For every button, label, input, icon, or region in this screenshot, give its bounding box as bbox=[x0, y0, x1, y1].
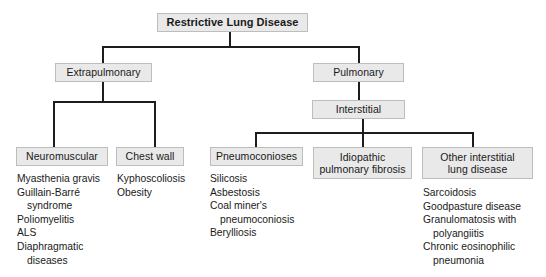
list-item-text: ALS bbox=[17, 227, 36, 238]
list-item-text: Kyphoscoliosis bbox=[117, 173, 185, 184]
connector-extrapulmonary-stem bbox=[102, 81, 104, 102]
connector-pulmonary-to-interstitial bbox=[358, 81, 360, 100]
connector-to-idiopathic-pulmonary-fibrosis bbox=[362, 132, 364, 147]
list-item-text: Poliomyelitis bbox=[17, 214, 74, 225]
list-item-text: Chronic eosinophilic bbox=[423, 241, 515, 252]
node-extrapulmonary[interactable]: Extrapulmonary bbox=[55, 63, 152, 82]
node-label: Interstitial bbox=[332, 103, 386, 116]
node-label: Neuromuscular bbox=[22, 150, 102, 163]
node-label: Idiopathicpulmonary fibrosis bbox=[315, 151, 409, 176]
list-item-continuation: pneumoconiosis bbox=[210, 213, 310, 227]
node-label: Restrictive Lung Disease bbox=[162, 16, 302, 29]
node-pulmonary[interactable]: Pulmonary bbox=[313, 63, 404, 82]
list-item: Sarcoidosis bbox=[423, 186, 545, 200]
list-item-text: Granulomatosis with bbox=[423, 214, 516, 225]
list-item: Guillain-Barrésyndrome bbox=[17, 186, 117, 213]
node-label: Chest wall bbox=[122, 150, 179, 163]
list-item: Myasthenia gravis bbox=[17, 172, 117, 186]
connector-level1-bar bbox=[102, 46, 360, 48]
list-item-text: Berylliosis bbox=[210, 227, 256, 238]
node-pneumoconioses[interactable]: Pneumoconioses bbox=[210, 147, 303, 166]
list-item: Obesity bbox=[117, 186, 202, 200]
node-label-line2: lung disease bbox=[448, 163, 508, 175]
list-item-text: Guillain-Barré bbox=[17, 187, 80, 198]
connector-to-chest-wall bbox=[154, 101, 156, 147]
list-item: ALS bbox=[17, 226, 117, 240]
list-item-continuation: polyangiitis bbox=[423, 227, 545, 241]
node-label: Pulmonary bbox=[329, 66, 388, 79]
connector-interstitial-bar bbox=[255, 132, 473, 134]
list-item-continuation: pneumonia bbox=[423, 254, 545, 268]
connector-to-other-interstitial bbox=[472, 132, 474, 147]
list-item: Silicosis bbox=[210, 172, 310, 186]
list-item: Poliomyelitis bbox=[17, 213, 117, 227]
connector-to-extrapulmonary bbox=[102, 46, 104, 63]
list-chest-wall: KyphoscoliosisObesity bbox=[117, 172, 202, 199]
node-label: Pneumoconioses bbox=[212, 150, 301, 163]
list-item-text: Goodpasture disease bbox=[423, 201, 521, 212]
list-item: Coal miner'spneumoconiosis bbox=[210, 199, 310, 226]
list-neuromuscular: Myasthenia gravisGuillain-BarrésyndromeP… bbox=[17, 172, 117, 267]
list-pneumoconioses: SilicosisAsbestosisCoal miner'spneumocon… bbox=[210, 172, 310, 240]
node-idiopathic-pulmonary-fibrosis[interactable]: Idiopathicpulmonary fibrosis bbox=[313, 147, 412, 179]
list-item-text: Diaphragmatic bbox=[17, 241, 83, 252]
list-item: Diaphragmaticdiseases bbox=[17, 240, 117, 267]
connector-to-neuromuscular bbox=[53, 101, 55, 147]
list-item-continuation: diseases bbox=[17, 254, 117, 268]
connector-to-pneumoconioses bbox=[255, 132, 257, 147]
list-item: Granulomatosis withpolyangiitis bbox=[423, 213, 545, 240]
connector-extrapulmonary-bar bbox=[53, 101, 155, 103]
list-item: Goodpasture disease bbox=[423, 200, 545, 214]
list-item-text: Asbestosis bbox=[210, 187, 260, 198]
list-item-text: Sarcoidosis bbox=[423, 187, 476, 198]
connector-interstitial-stem bbox=[362, 118, 364, 133]
node-label-line1: Idiopathic bbox=[340, 151, 385, 163]
list-item: Asbestosis bbox=[210, 186, 310, 200]
list-item-text: Myasthenia gravis bbox=[17, 173, 100, 184]
node-label-line2: pulmonary fibrosis bbox=[319, 163, 405, 175]
list-item-continuation: syndrome bbox=[17, 199, 117, 213]
connector-to-pulmonary bbox=[358, 46, 360, 63]
list-item: Berylliosis bbox=[210, 226, 310, 240]
list-item-text: Obesity bbox=[117, 187, 152, 198]
node-other-interstitial-lung-disease[interactable]: Other interstitiallung disease bbox=[422, 147, 533, 179]
node-chest-wall[interactable]: Chest wall bbox=[116, 147, 184, 166]
list-item: Kyphoscoliosis bbox=[117, 172, 202, 186]
node-neuromuscular[interactable]: Neuromuscular bbox=[16, 147, 108, 166]
list-item-text: Silicosis bbox=[210, 173, 247, 184]
restrictive-lung-disease-flowchart: Restrictive Lung Disease Extrapulmonary … bbox=[0, 0, 546, 277]
node-interstitial[interactable]: Interstitial bbox=[312, 100, 405, 119]
list-item: Chronic eosinophilicpneumonia bbox=[423, 240, 545, 267]
list-other-interstitial-lung-disease: SarcoidosisGoodpasture diseaseGranulomat… bbox=[423, 186, 545, 268]
node-label-line1: Other interstitial bbox=[440, 151, 514, 163]
node-label: Other interstitiallung disease bbox=[436, 151, 518, 176]
connector-root-stem bbox=[229, 31, 231, 47]
node-label: Extrapulmonary bbox=[62, 66, 144, 79]
list-item-text: Coal miner's bbox=[210, 200, 267, 211]
node-restrictive-lung-disease[interactable]: Restrictive Lung Disease bbox=[157, 13, 308, 32]
